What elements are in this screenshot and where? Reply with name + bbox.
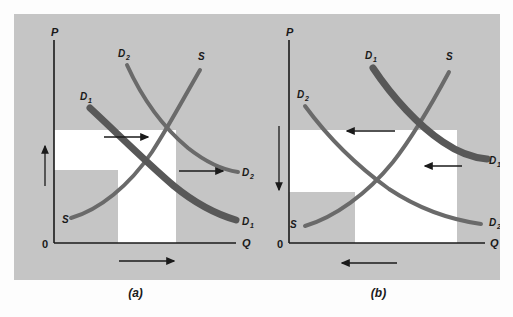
- label-supply-bottom: S: [62, 214, 69, 225]
- label-demand-shifted-top-text: D: [297, 89, 304, 100]
- origin-label: 0: [42, 238, 48, 250]
- origin-label: 0: [277, 238, 283, 250]
- label-supply-top: S: [198, 51, 205, 62]
- label-demand-initial-top: D 1: [365, 50, 377, 63]
- label-demand-shifted-top-sub: 2: [125, 54, 130, 61]
- panel-a: P Q 0 D 2 D 1 S S D 2 D 1: [14, 14, 257, 280]
- label-demand-shifted-top-sub: 2: [304, 95, 309, 102]
- quantity-axis-label: Q: [242, 237, 251, 249]
- panel-b-graph: P Q 0 D 1 D 2 S S D 1 D 2: [257, 14, 500, 280]
- label-demand-initial-right-sub: 1: [250, 222, 254, 229]
- price-axis-label: P: [51, 26, 59, 38]
- label-demand-initial-right: D 1: [242, 216, 254, 229]
- label-demand-initial-right-sub: 1: [497, 161, 500, 168]
- quantity-axis-label: Q: [490, 237, 499, 249]
- price-axis-label: P: [286, 26, 294, 38]
- caption-panel-a: (a): [14, 286, 257, 300]
- label-demand-shifted-right-sub: 2: [249, 173, 254, 180]
- label-demand-initial-top: D 1: [80, 91, 92, 104]
- label-demand-shifted-right-text: D: [489, 217, 496, 228]
- label-demand-shifted-right: D 2: [489, 217, 500, 230]
- supply-demand-figure: P Q 0 D 2 D 1 S S D 2 D 1: [0, 0, 513, 317]
- label-demand-initial-right-text: D: [489, 155, 496, 166]
- panel-b: P Q 0 D 1 D 2 S S D 1 D 2: [257, 14, 500, 280]
- label-demand-initial-top-text: D: [80, 91, 87, 102]
- label-demand-initial-right: D 1: [489, 155, 500, 168]
- label-demand-shifted-right-sub: 2: [496, 223, 500, 230]
- label-demand-shifted-top: D 2: [297, 89, 309, 102]
- label-demand-initial-top-sub: 1: [88, 97, 92, 104]
- panel-a-graph: P Q 0 D 2 D 1 S S D 2 D 1: [14, 14, 257, 280]
- label-supply-top: S: [446, 51, 453, 62]
- caption-panel-b: (b): [257, 286, 500, 300]
- label-demand-initial-right-text: D: [242, 216, 249, 227]
- label-demand-initial-top-sub: 1: [373, 56, 377, 63]
- label-demand-shifted-top: D 2: [118, 48, 130, 61]
- label-demand-shifted-right: D 2: [242, 167, 254, 180]
- label-supply-bottom: S: [290, 219, 297, 230]
- label-demand-initial-top-text: D: [365, 50, 372, 61]
- label-demand-shifted-right-text: D: [242, 167, 249, 178]
- label-demand-shifted-top-text: D: [118, 48, 125, 59]
